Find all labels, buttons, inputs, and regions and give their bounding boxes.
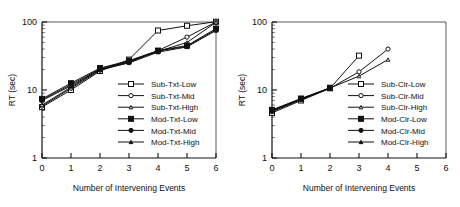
legend-label: Mod-Clr-High: [381, 138, 429, 147]
legend-label: Sub-Clr-High: [381, 103, 427, 112]
legend-marker: [359, 82, 364, 87]
x-axis-title: Number of Intervening Events: [73, 183, 185, 193]
y-axis-title: RT (sec): [237, 74, 247, 106]
x-tick-label: 5: [414, 163, 419, 173]
plot-group: 1101000123456Number of Intervening Event…: [237, 17, 449, 193]
x-tick-label: 1: [68, 163, 73, 173]
legend-marker: [359, 116, 364, 121]
legend-marker: [129, 116, 134, 121]
x-axis-title: Number of Intervening Events: [303, 183, 415, 193]
legend-label: Mod-Clr-Low: [381, 115, 427, 124]
legend-label: Mod-Txt-Mid: [151, 127, 196, 136]
legend-marker: [359, 128, 363, 132]
figure-two-panel-line-charts: 1101000123456Number of Intervening Event…: [0, 0, 460, 207]
legend-label: Sub-Txt-Low: [151, 80, 197, 89]
data-point: [185, 23, 190, 28]
x-tick-label: 2: [97, 163, 102, 173]
chart-panel-left: 1101000123456Number of Intervening Event…: [0, 0, 230, 207]
x-tick-label: 2: [327, 163, 332, 173]
x-tick-label: 0: [39, 163, 44, 173]
legend-label: Mod-Txt-High: [151, 138, 199, 147]
legend-marker: [359, 140, 363, 143]
y-tick-label: 10: [257, 85, 267, 95]
legend-marker: [129, 128, 133, 132]
y-tick-label: 10: [27, 85, 37, 95]
legend-label: Mod-Txt-Low: [151, 115, 198, 124]
x-tick-label: 4: [385, 163, 390, 173]
y-axis-title: RT (sec): [7, 74, 17, 106]
chart-svg-right: 1101000123456Number of Intervening Event…: [230, 0, 460, 207]
legend: Sub-Txt-LowSub-Txt-MidSub-Txt-HighMod-Tx…: [118, 80, 199, 147]
x-tick-label: 3: [356, 163, 361, 173]
x-tick-label: 3: [126, 163, 131, 173]
data-point: [185, 35, 189, 39]
x-tick-label: 4: [155, 163, 160, 173]
chart-panel-right: 1101000123456Number of Intervening Event…: [230, 0, 460, 207]
plot-group: 1101000123456Number of Intervening Event…: [7, 17, 219, 193]
data-point: [357, 53, 362, 58]
legend-marker: [359, 106, 363, 109]
x-tick-label: 6: [443, 163, 448, 173]
x-tick-label: 1: [298, 163, 303, 173]
legend-marker: [129, 106, 133, 109]
legend-label: Mod-Clr-Mid: [381, 127, 425, 136]
data-point: [156, 28, 161, 33]
data-point: [386, 58, 390, 61]
legend-marker: [359, 94, 363, 98]
legend-marker: [129, 140, 133, 143]
legend-label: Sub-Clr-Mid: [381, 92, 424, 101]
x-tick-label: 0: [269, 163, 274, 173]
legend-label: Sub-Txt-High: [151, 103, 198, 112]
data-point: [357, 70, 361, 74]
y-tick-label: 100: [252, 17, 267, 27]
x-tick-label: 5: [184, 163, 189, 173]
chart-svg-left: 1101000123456Number of Intervening Event…: [0, 0, 230, 207]
y-tick-label: 100: [22, 17, 37, 27]
data-point: [386, 47, 390, 51]
legend-label: Sub-Clr-Low: [381, 80, 426, 89]
series-line: [272, 49, 388, 112]
legend-marker: [129, 94, 133, 98]
legend-label: Sub-Txt-Mid: [151, 92, 195, 101]
y-tick-label: 1: [262, 153, 267, 163]
legend-marker: [129, 82, 134, 87]
x-tick-label: 6: [213, 163, 218, 173]
legend: Sub-Clr-LowSub-Clr-MidSub-Clr-HighMod-Cl…: [348, 80, 429, 147]
y-tick-label: 1: [32, 153, 37, 163]
